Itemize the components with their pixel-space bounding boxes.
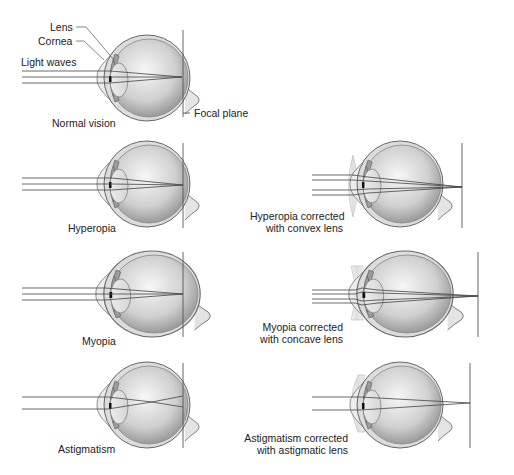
normal-eye-icon xyxy=(97,35,199,121)
myopia-label: Myopia xyxy=(82,335,116,347)
eye-refraction-diagram xyxy=(0,0,514,475)
astigmatism-corrected-label: Astigmatism corrected with astigmatic le… xyxy=(235,432,348,456)
cornea-annotation: Cornea xyxy=(38,35,72,47)
panel-hyperopia xyxy=(22,141,199,228)
hyperopia-label: Hyperopia xyxy=(68,222,116,234)
hyperopia-corrected-label: Hyperopia corrected with convex lens xyxy=(250,210,343,234)
light-waves-annotation: Light waves xyxy=(21,56,76,68)
focal-plane-annotation: Focal plane xyxy=(194,107,248,119)
astigmatism-eye-icon xyxy=(97,362,199,448)
normal-vision-label: Normal vision xyxy=(52,117,116,129)
panel-myopia xyxy=(22,251,210,337)
myopia-corrected-label: Myopia corrected with concave lens xyxy=(250,321,343,345)
lens-annotation: Lens xyxy=(50,21,73,33)
astigmatism-label: Astigmatism xyxy=(58,443,115,455)
panel-astigmatism xyxy=(22,362,199,448)
